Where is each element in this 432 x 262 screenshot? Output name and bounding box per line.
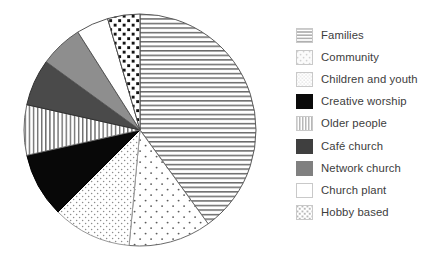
- pie-svg: [0, 0, 290, 262]
- pie-plot-area: [0, 0, 290, 262]
- legend-item[interactable]: Creative worship: [296, 91, 432, 113]
- legend-item-label: Church plant: [321, 184, 386, 197]
- legend-item-label: Community: [321, 51, 379, 64]
- legend-swatch: [296, 50, 313, 65]
- legend-item[interactable]: Café church: [296, 135, 432, 157]
- legend-swatch: [296, 205, 313, 220]
- legend-item-label: Network church: [321, 162, 401, 175]
- legend-item-label: Families: [321, 29, 364, 42]
- legend-item-label: Children and youth: [321, 73, 418, 86]
- legend-swatch: [296, 72, 313, 87]
- legend-swatch: [296, 94, 313, 109]
- legend-swatch: [296, 161, 313, 176]
- pie-slice-group: [24, 14, 256, 246]
- legend-swatch: [296, 116, 313, 131]
- legend-swatch: [296, 28, 313, 43]
- legend-item-label: Older people: [321, 117, 387, 130]
- legend-swatch: [296, 183, 313, 198]
- pie-chart-figure: FamiliesCommunityChildren and youthCreat…: [0, 0, 432, 262]
- legend-item[interactable]: Community: [296, 46, 432, 68]
- legend-item-label: Café church: [321, 140, 383, 153]
- legend-item[interactable]: Network church: [296, 157, 432, 179]
- legend-item[interactable]: Older people: [296, 113, 432, 135]
- legend-swatch: [296, 139, 313, 154]
- legend-item[interactable]: Church plant: [296, 179, 432, 201]
- legend-item[interactable]: Families: [296, 24, 432, 46]
- legend-item[interactable]: Children and youth: [296, 68, 432, 90]
- legend-item-label: Hobby based: [321, 206, 389, 219]
- chart-legend: FamiliesCommunityChildren and youthCreat…: [296, 24, 432, 224]
- legend-item[interactable]: Hobby based: [296, 202, 432, 224]
- legend-item-label: Creative worship: [321, 95, 407, 108]
